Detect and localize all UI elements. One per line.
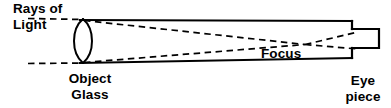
objective-lens: [74, 19, 92, 63]
label-object: Object: [64, 71, 116, 86]
label-eye: Eye: [338, 73, 388, 88]
telescope-tube: [80, 20, 352, 63]
lens-rear-face: [83, 19, 92, 63]
label-glass: Glass: [64, 87, 116, 102]
incoming-ray-lower: [28, 63, 83, 64]
label-focus: Focus: [261, 46, 301, 61]
lens-front-face: [74, 19, 83, 63]
label-light: Light: [13, 17, 47, 32]
eyepiece: [352, 29, 379, 48]
exit-ray-upper: [305, 32, 358, 45]
label-piece: piece: [338, 89, 388, 104]
eyepiece-outline: [352, 29, 379, 48]
diagram-canvas: [0, 0, 391, 108]
refracted-ray-from-top: [84, 21, 305, 45]
exit-ray-lower: [305, 45, 358, 50]
tube-top-wall: [80, 20, 352, 21]
telescope-ray-diagram: Rays of Light Object Glass Focus Eye pie…: [0, 0, 391, 108]
label-rays-of: Rays of: [13, 1, 62, 16]
